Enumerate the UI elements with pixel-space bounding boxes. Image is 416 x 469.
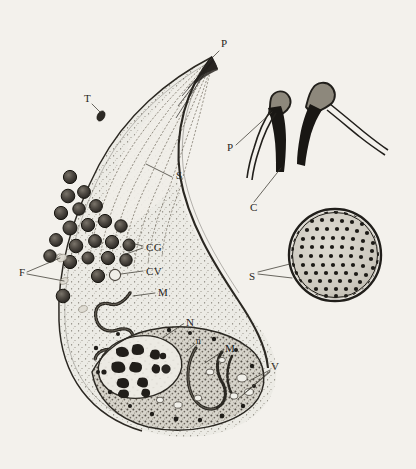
nucleolus [162, 365, 170, 373]
conoid-right-membrane-inner [327, 110, 385, 155]
label-subpellicular-s: S [176, 169, 183, 181]
figure-root: P T S CG CV F M N n M V P C S [0, 0, 416, 469]
conoid-inset [236, 83, 388, 202]
label-fibrils-f: F [19, 266, 26, 278]
conoid-right-membrane-outer [330, 104, 388, 150]
label-mito-upper-m: M [158, 286, 168, 298]
label-nucleus-n: N [186, 316, 194, 328]
toxoneme [95, 110, 106, 123]
label-conoid-c: C [250, 201, 258, 213]
label-granules-cg: CG [146, 241, 162, 253]
conoid-left-membrane-outer [247, 110, 271, 178]
label-vacuole-cv: CV [146, 265, 162, 277]
conoid-c-leader [254, 168, 281, 202]
section-s-leader [258, 264, 292, 278]
conoid-right-dark-band [297, 104, 322, 166]
cytoplasmic-vacuole [109, 269, 120, 280]
section-interior [291, 211, 379, 299]
label-toxoneme-t: T [84, 92, 91, 104]
label-vacuoles-v: V [271, 360, 279, 372]
sporozoite-figure: P T S CG CV F M N n M V P C S [0, 0, 416, 469]
label-nucleolus-n: n [196, 336, 201, 346]
label-mito-lower-m: M [225, 342, 235, 354]
label-apex-p: P [221, 37, 228, 49]
label-section-s: S [249, 270, 256, 282]
conoid-left-dark-band [268, 106, 286, 172]
transverse-section-inset [258, 203, 381, 301]
label-conoid-p: P [227, 141, 234, 153]
